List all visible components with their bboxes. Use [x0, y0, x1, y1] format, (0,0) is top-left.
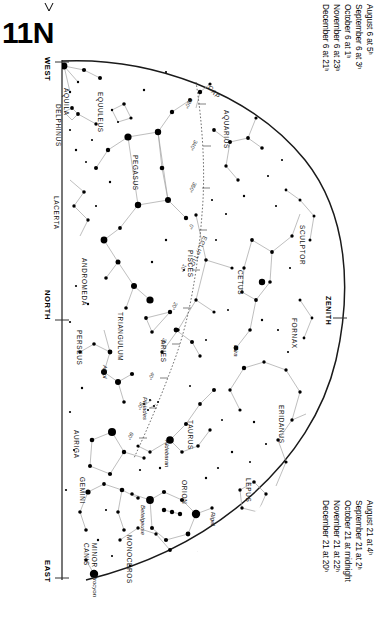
named-star-label: Algol [102, 365, 108, 378]
constellation-label: DELPHINUS [55, 104, 62, 147]
constellation-label: EQUULEUS [97, 92, 104, 133]
constellation-label: CANIS [83, 543, 90, 566]
constellation-label: TAURUS [187, 420, 194, 450]
date-line: December 21 at 20ʰ [321, 500, 331, 572]
named-star-label: Procyon [92, 575, 98, 597]
stars [61, 63, 316, 579]
constellation-label: ERIDANUS [278, 405, 285, 444]
constellation-label: LACERTA [53, 196, 60, 230]
constellation-lines [64, 66, 314, 574]
constellation-label: LEPUS [245, 478, 252, 502]
date-line: November 6 at 23ʰ [332, 4, 342, 71]
constellation-label: ORION [181, 480, 188, 504]
date-line: September 6 at 3ʰ [354, 4, 364, 69]
named-star-label: Aldebaran [164, 440, 170, 467]
named-star-label: Rigel [210, 512, 216, 526]
constellation-label: PEGASUS [132, 155, 139, 191]
constellation-label: MONOCEROS [126, 535, 133, 584]
constellation-label: AQUARIUS [223, 110, 230, 149]
date-line: August 6 at 5ʰ [365, 4, 375, 55]
date-line: September 21 at 2ʰ [354, 500, 364, 570]
named-star-label: Mira [233, 345, 239, 357]
constellation-label: FORNAX [291, 318, 298, 349]
zenith-label: ZENITH [325, 296, 332, 325]
date-line: October 21 at midnight [343, 500, 353, 582]
date-line: August 21 at 4ʰ [365, 500, 375, 555]
constellation-label: PERSEUS [76, 330, 83, 365]
horizon-frame [55, 60, 347, 580]
constellation-label: CETUS [237, 270, 244, 295]
constellation-label: AQUILA [63, 88, 70, 116]
star-chart-page: 11N [0, 0, 380, 617]
constellation-label: TRIANGULUM [117, 312, 124, 361]
named-star-label: Betelgeuse [140, 505, 146, 535]
constellation-label: MINOR [91, 543, 98, 568]
cardinal-label-west: WEST [43, 57, 52, 81]
constellation-label: AURIGA [73, 430, 80, 459]
cardinal-label-east: EAST [43, 560, 52, 583]
cardinal-label-north: NORTH [43, 290, 52, 320]
date-line: October 6 at 1ʰ [343, 4, 353, 58]
constellation-label: GEMINI [79, 477, 86, 504]
date-line: November 21 at 22ʰ [332, 500, 342, 572]
named-star-label: Pleiades [142, 397, 148, 420]
date-line: December 6 at 21ʰ [321, 4, 331, 71]
constellation-label: SCULPTOR [299, 225, 306, 265]
constellation-label: ANDROMEDA [81, 258, 88, 306]
